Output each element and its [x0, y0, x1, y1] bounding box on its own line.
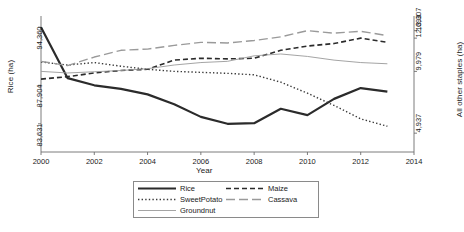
series-line-rice: [41, 27, 387, 124]
legend-grid: RiceMaizeSweetPotatoCassavaGroundnut: [134, 182, 318, 217]
data-series-layer: [41, 27, 387, 126]
chart-legend: RiceMaizeSweetPotatoCassavaGroundnut: [133, 181, 319, 218]
legend-label: Groundnut: [180, 207, 215, 215]
x-tick-label: 2000: [33, 157, 50, 166]
x-tick-label: 2010: [299, 157, 316, 166]
right-axis-title: All other staples (ha): [455, 25, 464, 135]
legend-swatch-sweetpotato: [138, 196, 176, 203]
axis-lines: [41, 16, 414, 152]
legend-entry-cassava[interactable]: Cassava: [226, 196, 314, 204]
legend-entry-rice[interactable]: Rice: [138, 185, 226, 193]
x-tick-label: 2012: [352, 157, 369, 166]
legend-label: Rice: [180, 185, 195, 193]
legend-label: Cassava: [268, 196, 297, 204]
x-tick-label: 2006: [193, 157, 210, 166]
x-tick-label: 2008: [246, 157, 263, 166]
right-tick-label: 12,693: [414, 15, 423, 38]
x-tick-label: 2014: [406, 157, 423, 166]
legend-swatch-groundnut: [138, 207, 176, 214]
x-tick-label: 2004: [139, 157, 156, 166]
right-tick-label: 4,937: [414, 114, 423, 133]
legend-swatch-maize: [226, 185, 264, 192]
legend-entry-maize[interactable]: Maize: [226, 185, 314, 193]
legend-entry-sweetpotato[interactable]: SweetPotato: [138, 196, 226, 204]
legend-swatch-rice: [138, 185, 176, 192]
left-tick-label: 87,904: [36, 85, 45, 108]
left-axis-title: Rice (ha): [6, 47, 15, 107]
legend-label: SweetPotato: [180, 196, 223, 204]
left-tick-label: 94,360: [36, 27, 45, 50]
x-axis-title: Year: [196, 166, 213, 175]
left-tick-label: 83,631: [36, 123, 45, 146]
right-tick-label: 9,979: [414, 52, 423, 71]
legend-label: Maize: [268, 185, 288, 193]
x-tick-label: 2002: [86, 157, 103, 166]
legend-entry-groundnut[interactable]: Groundnut: [138, 207, 226, 215]
legend-swatch-cassava: [226, 196, 264, 203]
